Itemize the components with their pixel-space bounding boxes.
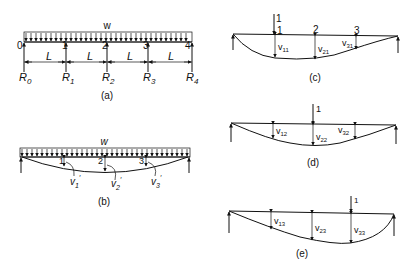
unit-load-label: 1 [316, 104, 321, 114]
reaction-label-1: R1 [62, 71, 74, 86]
figure-b: w 1 2 3 v1′ v2′ v3′ (b) [20, 136, 190, 207]
caption-b: (b) [98, 196, 110, 207]
deflection-label-v3: v3′ [151, 174, 162, 189]
deflection-label-v32: v32 [338, 125, 350, 136]
leader-line-3 [148, 162, 156, 176]
deflection-label-v23: v23 [315, 223, 327, 234]
deflection-label-v1: v1′ [70, 174, 81, 189]
reaction-label-4: R4 [186, 71, 199, 86]
node-label-2: 2 [313, 24, 319, 35]
caption-d: (d) [307, 157, 319, 168]
figure-d: 1 v12 v22 v32 (d) [231, 104, 396, 168]
span-label-3: L [127, 50, 133, 62]
caption-c: (c) [309, 72, 321, 83]
deflection-label-v33: v33 [354, 225, 366, 236]
load-arrows [22, 149, 187, 156]
reaction-label-3: R3 [143, 71, 156, 86]
beam [229, 211, 394, 214]
span-label-2: L [87, 50, 93, 62]
node-label-1: 1 [277, 25, 283, 36]
node-label-3: 3 [139, 156, 144, 166]
deflected-shape [233, 34, 398, 59]
deflected-shape [229, 211, 394, 243]
node-label-2: 2 [98, 156, 103, 166]
deflection-label-v12: v12 [276, 126, 288, 137]
distributed-load [24, 32, 192, 42]
deflection-label-v11: v11 [278, 42, 289, 53]
load-label-w: w [100, 136, 108, 147]
node-label-4: 4 [185, 40, 191, 51]
reaction-label-0: R0 [19, 71, 32, 86]
deflection-label-v31: v31 [342, 38, 354, 49]
deflection-label-v13: v13 [274, 216, 286, 227]
node-label-3: 3 [354, 25, 360, 36]
deflected-shape [231, 123, 396, 146]
figure-c: 1 1 2 3 v11 v21 v31 (c) [233, 13, 398, 83]
node-label-3: 3 [143, 40, 149, 51]
node-label-2: 2 [102, 40, 108, 51]
deflection-label-v22: v22 [316, 132, 328, 143]
figure-e: 1 v13 v23 v33 (e) [229, 196, 394, 259]
caption-a: (a) [101, 90, 113, 101]
figure-a: w 0 1 2 3 4 L L L L R0 R1 R2 R3 R4 (a) [17, 20, 199, 101]
unit-load-label: 1 [354, 196, 359, 205]
deflection-label-v21: v21 [318, 44, 330, 55]
beam-diagram: w 0 1 2 3 4 L L L L R0 R1 R2 R3 R4 (a) w [0, 0, 412, 271]
span-label-1: L [46, 50, 52, 62]
deflection-label-v2: v2′ [111, 176, 122, 191]
node-label-0: 0 [17, 40, 23, 51]
node-label-1: 1 [59, 156, 64, 166]
reaction-label-2: R2 [102, 71, 115, 86]
load-label-w: w [102, 20, 111, 31]
node-label-1: 1 [62, 40, 68, 51]
load-block [20, 148, 190, 157]
load-block [24, 32, 192, 42]
span-label-4: L [168, 50, 174, 62]
unit-load-label: 1 [276, 13, 282, 24]
caption-e: (e) [296, 248, 308, 259]
